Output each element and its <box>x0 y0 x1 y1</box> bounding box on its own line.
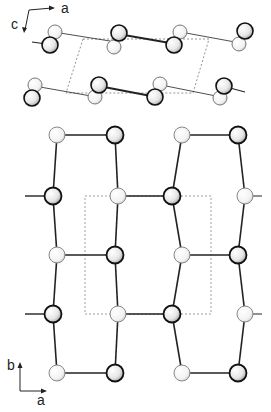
atom-light <box>174 127 190 143</box>
axis-c-arrowhead <box>22 27 27 33</box>
atom-dark <box>230 127 247 144</box>
atom-light <box>237 188 253 204</box>
atom-light <box>49 127 65 143</box>
atom-dark <box>107 127 124 144</box>
atom-dark <box>147 89 163 105</box>
atom-dark <box>237 23 253 39</box>
axis-a-arrowhead <box>49 6 55 11</box>
atom-light <box>174 365 190 381</box>
atom-dark <box>164 188 181 205</box>
atom-dark <box>42 37 58 53</box>
crystal-structure-figure: a c <box>0 0 271 412</box>
axis-b-label: b <box>7 357 15 373</box>
atom-dark <box>111 25 127 41</box>
atom-dark <box>166 37 182 53</box>
atom-dark <box>107 365 124 382</box>
axis-c-arrow <box>25 10 29 30</box>
atom-dark <box>91 77 107 93</box>
atom-dark <box>216 78 232 94</box>
atom-dark <box>24 90 40 106</box>
atom-light <box>237 306 253 322</box>
atom-dark <box>230 365 247 382</box>
atom-dark <box>164 306 181 323</box>
atom-dark <box>45 306 62 323</box>
top-bonds <box>32 33 245 96</box>
atom-light <box>174 247 190 263</box>
bottom-panel: b a <box>7 127 262 409</box>
atom-dark <box>45 188 62 205</box>
top-panel: a c <box>11 0 253 106</box>
atom-dark <box>107 247 124 264</box>
top-unit-cell <box>66 39 209 93</box>
axis-b-arrowhead <box>18 362 23 368</box>
axis-a-label: a <box>37 392 45 408</box>
axis-a-label: a <box>61 0 69 16</box>
atom-light <box>110 188 126 204</box>
axis-a-arrow <box>29 8 52 10</box>
atom-light <box>110 306 126 322</box>
axis-c-label: c <box>11 16 18 32</box>
bottom-axes: b a <box>7 357 47 408</box>
atom-light <box>107 40 121 54</box>
atom-light <box>49 365 65 381</box>
atom-dark <box>230 247 247 264</box>
bottom-atoms <box>45 127 254 382</box>
atom-light <box>49 247 65 263</box>
